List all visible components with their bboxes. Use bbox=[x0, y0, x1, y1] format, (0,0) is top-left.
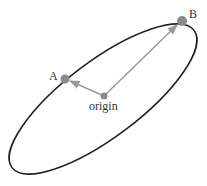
point-a bbox=[61, 75, 70, 84]
arrow-origin-to-a bbox=[70, 81, 104, 96]
label-origin: origin bbox=[89, 99, 118, 113]
point-b bbox=[177, 16, 187, 26]
arrow-origin-to-b bbox=[104, 25, 177, 96]
vector-diagram: A B origin bbox=[0, 0, 207, 186]
label-a: A bbox=[49, 69, 58, 83]
label-b: B bbox=[189, 7, 197, 21]
